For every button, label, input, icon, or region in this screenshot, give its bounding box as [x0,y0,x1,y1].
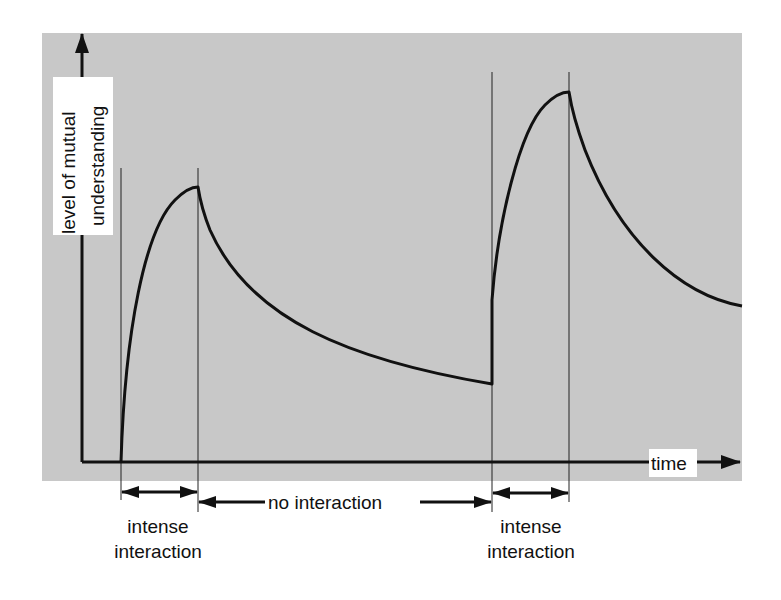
diagram: level of mutual understanding time no in… [0,0,781,600]
y-axis-label-line2: understanding [87,106,108,226]
intense-interaction-1-label-line2: interaction [114,541,202,562]
intense-interaction-2-label-line1: intense [500,516,561,537]
x-axis-label: time [651,453,687,474]
intense-interaction-1-label-line1: intense [127,516,188,537]
intense-interaction-2-label-line2: interaction [487,541,575,562]
no-interaction-label: no interaction [268,492,382,513]
y-axis-label-line1: level of mutual [58,111,79,234]
